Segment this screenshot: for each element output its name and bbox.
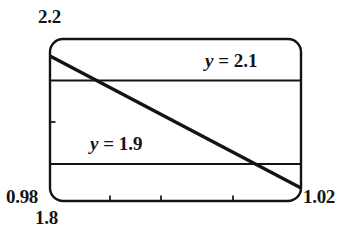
annotation-value: = 1.9 [103, 133, 142, 154]
plot-frame [50, 39, 301, 201]
plot-area [0, 0, 348, 235]
annotation-y-1-9: y = 1.9 [90, 133, 143, 155]
annotation-y-2-1: y = 2.1 [205, 50, 258, 72]
chart-figure: 2.2 0.98 1.8 1.02 y = 2.1 y = 1.9 [0, 0, 348, 235]
decreasing-curve [50, 56, 301, 188]
annotation-value: = 2.1 [218, 50, 257, 71]
